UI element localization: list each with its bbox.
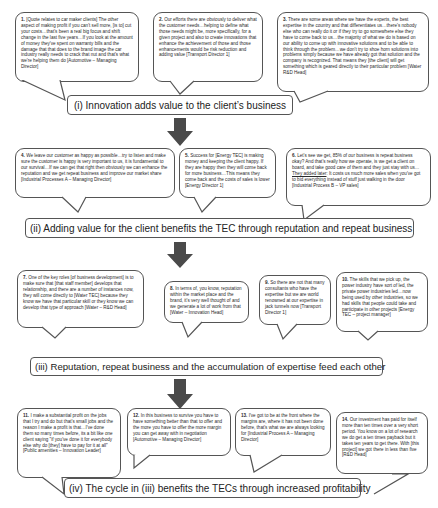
stage-box-4: (iv) The cycle in (iii) benefits the TEC…: [64, 478, 361, 498]
quote-number: 10.: [342, 277, 348, 282]
quote-bubble-3: 3. There are some areas where we have th…: [277, 12, 429, 92]
quote-text: I've got to be at the front where the ma…: [241, 413, 325, 442]
quote-number: 4.: [21, 153, 25, 158]
speech-tail-icon: [192, 196, 222, 214]
stage-label: (iv) The cycle in (iii) benefits the TEC…: [69, 483, 370, 494]
stage-label: (iii) Reputation, repeat business and th…: [35, 361, 385, 372]
quote-bubble-1: 1. [Quote relates to car maker clients] …: [15, 12, 139, 82]
down-arrow-icon: [167, 242, 193, 268]
speech-tail-icon: [372, 472, 412, 496]
speech-tail-icon: [132, 454, 154, 470]
quote-number: 2.: [159, 17, 163, 22]
quote-bubble-12: 12. In this business to survive you have…: [127, 408, 231, 456]
quote-bubble-5: 5. Success for [Energy TEC] is making mo…: [179, 148, 276, 198]
down-arrow-icon: [167, 118, 193, 146]
quote-text: The skills that we pick up, the power in…: [342, 277, 418, 317]
quote-number: 11.: [23, 413, 29, 418]
quote-text-underlined: They added later: [292, 171, 326, 176]
quote-text: In this business to survive you have to …: [133, 413, 222, 442]
quote-text: Our efforts there are obviously to deliv…: [159, 17, 257, 57]
quote-number: 12.: [133, 413, 139, 418]
quote-bubble-11: 11. I make a substantial profit on the j…: [17, 408, 121, 478]
quote-bubble-4: 4. We leave our customer as happy as pos…: [15, 148, 175, 198]
quote-bubble-6: 6. Let's see we get, 85% of our business…: [286, 148, 431, 206]
quote-number: 14.: [342, 417, 348, 422]
quote-number: 7.: [23, 275, 27, 280]
stage-label: (ii) Adding value for the client benefit…: [30, 223, 412, 234]
quote-text: In terms of, you know, reputation within…: [170, 286, 242, 315]
quote-number: 6.: [292, 153, 296, 158]
quote-bubble-2: 2. Our efforts there are obviously to de…: [153, 12, 263, 82]
quote-bubble-9: 9. So there are not that many consultant…: [259, 275, 331, 325]
quote-bubble-13: 13. I've got to be at the front where th…: [235, 408, 331, 456]
quote-number: 3.: [283, 17, 287, 22]
quote-bubble-14: 14. Our investment has paid for itself m…: [336, 412, 428, 474]
quote-text: [Quote relates to car maker clients] The…: [21, 17, 133, 69]
quote-text: Our investment has paid for itself more …: [342, 417, 419, 457]
stage-box-2: (ii) Adding value for the client benefit…: [25, 218, 414, 238]
stage-box-3: (iii) Reputation, repeat business and th…: [30, 357, 383, 376]
quote-text: We leave our customer as happy as possib…: [21, 153, 167, 182]
down-arrow-icon: [167, 379, 193, 409]
quote-text: There are some areas where we have the e…: [283, 17, 421, 75]
speech-tail-icon: [292, 90, 332, 106]
quote-bubble-7: 7. One of the key roles [of business dev…: [17, 270, 144, 328]
quote-number: 8.: [170, 286, 174, 291]
quote-bubble-8: 8. In terms of, you know, reputation wit…: [164, 281, 249, 323]
quote-text: I make a substantial profit on the jobs …: [23, 413, 113, 453]
speech-tail-icon: [20, 80, 70, 102]
speech-tail-icon: [248, 454, 288, 474]
quote-number: 5.: [185, 153, 189, 158]
speech-tail-icon: [168, 80, 198, 96]
quote-number: 1.: [21, 17, 25, 22]
speech-tail-icon: [40, 326, 70, 342]
quote-number: 9.: [265, 280, 269, 285]
speech-tail-icon: [180, 321, 210, 339]
stage-box-1: (i) Innovation adds value to the client’…: [67, 95, 293, 115]
speech-tail-icon: [275, 323, 305, 341]
speech-tail-icon: [60, 196, 90, 214]
quote-bubble-10: 10. The skills that we pick up, the powe…: [336, 272, 428, 332]
quote-text: One of the key roles [of business develo…: [23, 275, 134, 310]
quote-text: So there are not that many consultants w…: [265, 280, 325, 315]
speech-tail-icon: [356, 330, 382, 342]
quote-number: 13.: [241, 413, 247, 418]
quote-text: Success for [Energy TEC] is making money…: [185, 153, 270, 188]
stage-label: (i) Innovation adds value to the client’…: [74, 100, 286, 111]
quote-text-part: Let's see we get, 85% of our business is…: [292, 153, 419, 170]
